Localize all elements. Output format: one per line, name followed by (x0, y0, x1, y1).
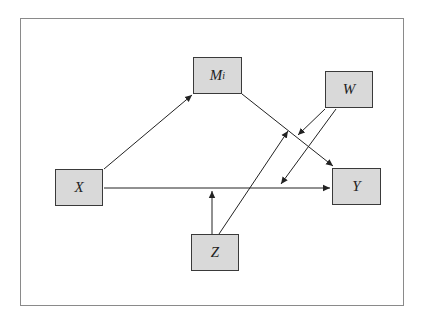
edges-layer (0, 0, 426, 320)
edge-z-to-my-path (219, 131, 288, 234)
node-m-label: M (210, 67, 223, 84)
node-m-i: Mi (193, 57, 242, 94)
edge-w-to-xy-path (281, 109, 336, 184)
node-w: W (325, 71, 373, 108)
node-y-label: Y (352, 178, 360, 195)
node-m-subscript: i (222, 70, 225, 81)
node-x-label: X (74, 179, 83, 196)
edge-m-to-y (242, 94, 333, 166)
node-z: Z (191, 234, 239, 271)
node-w-label: W (343, 81, 356, 98)
edge-w-to-my-path (298, 109, 325, 135)
node-x: X (55, 169, 103, 206)
node-y: Y (332, 168, 381, 205)
node-z-label: Z (211, 244, 219, 261)
edge-x-to-m (104, 95, 192, 169)
